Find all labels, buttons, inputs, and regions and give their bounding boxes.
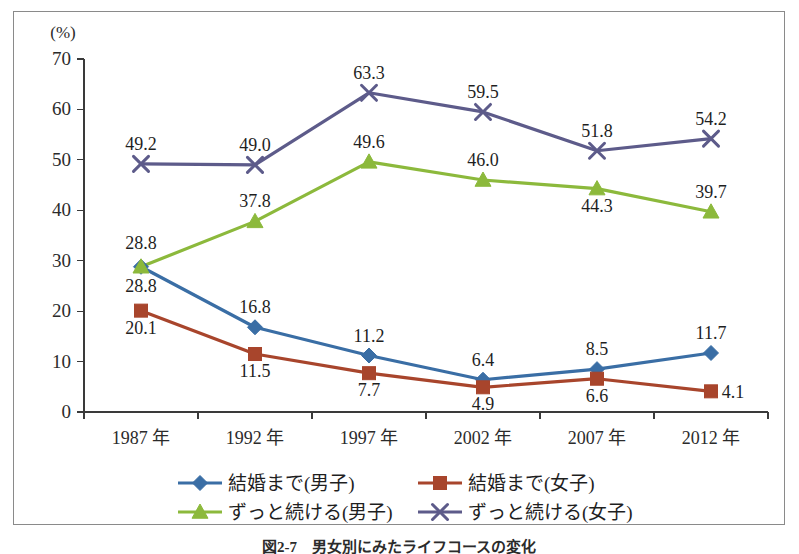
x-tick-label: 2012 年 (682, 428, 741, 448)
data-point-value-label: 49.2 (125, 134, 157, 154)
data-point-value-label: 4.1 (722, 382, 745, 402)
data-point-value-label: 44.3 (581, 196, 613, 216)
data-point-value-label: 11.2 (354, 326, 385, 346)
data-point-value-label: 6.6 (586, 386, 609, 406)
data-point-value-label: 37.8 (239, 191, 271, 211)
data-point-marker (591, 372, 604, 385)
y-tick-label: 40 (52, 199, 71, 220)
data-point-value-label: 7.7 (358, 380, 381, 400)
x-tick-label: 2007 年 (568, 428, 627, 448)
y-tick-label: 70 (52, 48, 71, 69)
legend-item[interactable]: 結婚まで(女子) (418, 473, 595, 495)
data-point-value-label: 49.0 (239, 135, 271, 155)
chart-series-lines (141, 93, 711, 392)
series-line (141, 93, 711, 165)
data-point-value-label: 39.7 (695, 182, 727, 202)
data-point-value-label: 59.5 (467, 82, 499, 102)
data-point-marker (705, 385, 718, 398)
x-tick-label: 1997 年 (340, 428, 399, 448)
chart-axes (77, 59, 768, 419)
x-tick-label: 1992 年 (226, 428, 285, 448)
data-point-value-label: 8.5 (586, 339, 609, 359)
x-tick-label: 1987 年 (112, 428, 171, 448)
x-axis-tick-labels: 1987 年1992 年1997 年2002 年2007 年2012 年 (112, 428, 741, 448)
series-line (141, 162, 711, 267)
legend-item[interactable]: ずっと続ける(男子) (178, 502, 393, 524)
legend-item-label: ずっと続ける(女子) (468, 502, 633, 524)
data-point-value-label: 28.8 (125, 233, 157, 253)
data-point-marker (434, 477, 447, 490)
x-tick-label: 2002 年 (454, 428, 513, 448)
legend-item-label: ずっと続ける(男子) (228, 502, 393, 524)
y-tick-label: 30 (52, 250, 71, 271)
data-point-value-label: 16.8 (239, 297, 271, 317)
y-tick-label: 10 (52, 351, 71, 372)
data-point-value-label: 46.0 (467, 150, 499, 170)
data-point-marker (363, 367, 376, 380)
data-point-marker (477, 381, 490, 394)
data-point-value-label: 20.1 (125, 318, 157, 338)
data-point-marker (247, 213, 263, 227)
y-tick-label: 0 (62, 401, 72, 422)
y-tick-label: 50 (52, 149, 71, 170)
data-point-marker (361, 154, 377, 168)
figure-caption-text: 図2-7 男女別にみたライフコースの変化 (262, 538, 536, 554)
data-point-value-label: 63.3 (353, 63, 385, 83)
figure-caption: 図2-7 男女別にみたライフコースの変化 (262, 538, 536, 554)
data-point-value-label: 54.2 (695, 109, 727, 129)
data-point-value-label: 28.8 (125, 276, 157, 296)
series-line (141, 311, 711, 392)
data-point-value-label: 11.5 (240, 361, 271, 381)
y-tick-label: 60 (52, 98, 71, 119)
legend-item-label: 結婚まで(女子) (468, 473, 595, 495)
data-point-marker (362, 348, 377, 363)
legend-item[interactable]: ずっと続ける(女子) (418, 502, 633, 524)
y-axis-unit-text: (%) (50, 23, 75, 42)
chart-legend[interactable]: 結婚まで(男子)結婚まで(女子)ずっと続ける(男子)ずっと続ける(女子) (178, 473, 633, 524)
y-axis-tick-labels: 010203040506070 (52, 48, 71, 422)
data-point-value-label: 49.6 (353, 132, 385, 152)
data-point-marker (704, 345, 719, 360)
y-tick-label: 20 (52, 300, 71, 321)
legend-item[interactable]: 結婚まで(男子) (178, 473, 355, 495)
series-line (141, 267, 711, 380)
line-chart: 010203040506070 1987 年1992 年1997 年2002 年… (0, 0, 799, 554)
data-point-value-label: 11.7 (696, 323, 727, 343)
chart-data-markers (133, 85, 719, 398)
data-point-marker (249, 348, 262, 361)
data-point-value-label: 6.4 (472, 350, 495, 370)
data-point-value-label: 51.8 (581, 121, 613, 141)
figure-root: 010203040506070 1987 年1992 年1997 年2002 年… (0, 0, 799, 554)
data-point-value-label: 4.9 (472, 394, 495, 414)
data-point-marker (193, 476, 208, 491)
data-point-marker (135, 304, 148, 317)
y-axis-unit-label: (%) (50, 23, 75, 42)
legend-item-label: 結婚まで(男子) (228, 473, 355, 495)
data-point-marker (248, 320, 263, 335)
